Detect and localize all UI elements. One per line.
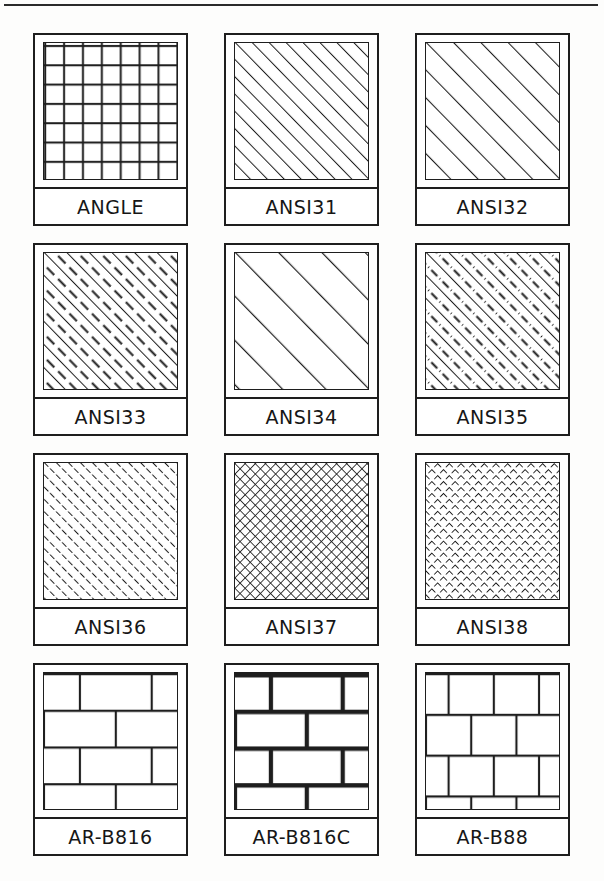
pattern-name-label: ANSI36 (35, 609, 186, 644)
pattern-swatch (234, 252, 369, 390)
pattern-card[interactable]: ANGLE (33, 33, 188, 226)
pattern-swatch-frame (35, 455, 186, 609)
pattern-card[interactable]: AR-B816 (33, 663, 188, 856)
pattern-swatch (43, 42, 178, 180)
pattern-card[interactable]: ANSI38 (415, 453, 570, 646)
pattern-name-label: AR-B88 (417, 819, 568, 854)
pattern-grid: ANGLEANSI31ANSI32ANSI33ANSI34ANSI35ANSI3… (0, 0, 604, 881)
pattern-swatch (234, 462, 369, 600)
pattern-swatch (425, 42, 560, 180)
pattern-swatch-frame (417, 455, 568, 609)
pattern-swatch (43, 252, 178, 390)
pattern-name-label: ANSI31 (226, 189, 377, 224)
pattern-swatch-frame (226, 455, 377, 609)
pattern-name-label: ANSI38 (417, 609, 568, 644)
pattern-swatch-frame (417, 245, 568, 399)
pattern-name-label: ANSI35 (417, 399, 568, 434)
pattern-name-label: ANSI37 (226, 609, 377, 644)
pattern-card[interactable]: ANSI36 (33, 453, 188, 646)
pattern-swatch-frame (226, 665, 377, 819)
pattern-swatch-frame (417, 35, 568, 189)
pattern-name-label: ANSI32 (417, 189, 568, 224)
pattern-name-label: ANSI33 (35, 399, 186, 434)
pattern-name-label: ANSI34 (226, 399, 377, 434)
pattern-swatch (234, 42, 369, 180)
pattern-swatch (234, 672, 369, 810)
pattern-name-label: ANGLE (35, 189, 186, 224)
pattern-card[interactable]: AR-B816C (224, 663, 379, 856)
hatch-pattern-sheet: ANGLEANSI31ANSI32ANSI33ANSI34ANSI35ANSI3… (0, 0, 604, 881)
pattern-name-label: AR-B816 (35, 819, 186, 854)
pattern-swatch (43, 672, 178, 810)
pattern-swatch-frame (35, 245, 186, 399)
pattern-card[interactable]: ANSI32 (415, 33, 570, 226)
pattern-name-label: AR-B816C (226, 819, 377, 854)
pattern-card[interactable]: ANSI33 (33, 243, 188, 436)
pattern-swatch (43, 462, 178, 600)
pattern-card[interactable]: AR-B88 (415, 663, 570, 856)
pattern-card[interactable]: ANSI35 (415, 243, 570, 436)
pattern-swatch (425, 252, 560, 390)
pattern-swatch-frame (35, 35, 186, 189)
pattern-swatch-frame (417, 665, 568, 819)
pattern-swatch-frame (226, 245, 377, 399)
pattern-card[interactable]: ANSI31 (224, 33, 379, 226)
pattern-swatch-frame (226, 35, 377, 189)
pattern-swatch (425, 672, 560, 810)
pattern-card[interactable]: ANSI34 (224, 243, 379, 436)
pattern-swatch (425, 462, 560, 600)
pattern-card[interactable]: ANSI37 (224, 453, 379, 646)
pattern-swatch-frame (35, 665, 186, 819)
